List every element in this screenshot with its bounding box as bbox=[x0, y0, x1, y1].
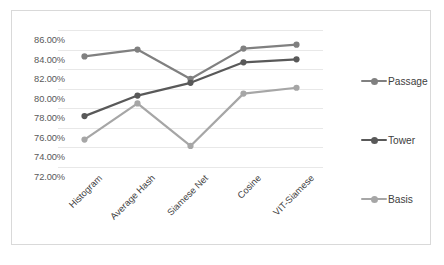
data-point[interactable] bbox=[187, 143, 193, 149]
plot-area bbox=[58, 30, 323, 167]
legend-item-passage[interactable]: Passage bbox=[361, 75, 428, 87]
legend-marker-icon bbox=[361, 76, 387, 86]
legend-item-tower[interactable]: Tower bbox=[361, 134, 415, 146]
data-point[interactable] bbox=[134, 100, 140, 106]
chart-container: 86.00%84.00%82.00%80.00%78.00%76.00%74.0… bbox=[11, 10, 431, 245]
legend-item-basis[interactable]: Basis bbox=[361, 193, 413, 205]
data-point[interactable] bbox=[293, 42, 299, 48]
x-axis: HistogramAverage HashSiamese NetCosineVI… bbox=[58, 167, 323, 246]
data-point[interactable] bbox=[134, 46, 140, 52]
data-point[interactable] bbox=[81, 137, 87, 143]
x-axis-tick-label: Histogram bbox=[67, 173, 104, 210]
data-point[interactable] bbox=[240, 91, 246, 97]
data-point[interactable] bbox=[240, 45, 246, 51]
data-point[interactable] bbox=[187, 80, 193, 86]
x-axis-tick-label: Average Hash bbox=[108, 173, 157, 222]
x-axis-tick-label: Cosine bbox=[235, 173, 263, 201]
legend-label: Tower bbox=[388, 135, 415, 146]
data-point[interactable] bbox=[134, 92, 140, 98]
legend-label: Basis bbox=[388, 194, 413, 205]
series-line-basis bbox=[85, 88, 297, 146]
data-point[interactable] bbox=[81, 53, 87, 59]
x-axis-tick-label: VIT-Siamese bbox=[271, 173, 316, 218]
data-point[interactable] bbox=[81, 113, 87, 119]
legend-marker-icon bbox=[361, 194, 387, 204]
legend-marker-icon bbox=[361, 135, 387, 145]
data-point[interactable] bbox=[293, 56, 299, 62]
chart-legend: PassageTowerBasis bbox=[353, 21, 443, 256]
series-layer bbox=[58, 30, 323, 167]
data-point[interactable] bbox=[240, 59, 246, 65]
x-axis-tick-label: Siamese Net bbox=[165, 173, 210, 218]
series-line-tower bbox=[85, 59, 297, 116]
data-point[interactable] bbox=[293, 85, 299, 91]
legend-label: Passage bbox=[388, 76, 428, 87]
